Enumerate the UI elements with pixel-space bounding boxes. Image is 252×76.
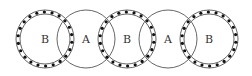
circle-label-b: B	[123, 33, 131, 46]
ring-dot	[141, 60, 144, 63]
ring-dot	[50, 11, 53, 14]
ring-dot	[183, 49, 186, 52]
circle-label-a: A	[81, 33, 91, 46]
ring-dot	[193, 60, 196, 63]
ring-dot	[134, 63, 137, 66]
ring-dot	[70, 41, 73, 44]
ring-dot	[43, 10, 46, 13]
ring-dot	[19, 27, 22, 30]
ring-dot	[207, 10, 210, 13]
ring-dot	[152, 33, 155, 36]
circle-label-b: B	[41, 33, 49, 46]
ring-dot	[23, 20, 26, 23]
ring-dot	[187, 20, 190, 23]
ring-dot	[132, 11, 135, 14]
ring-dot	[228, 55, 231, 58]
overlapping-circles-diagram: BABAB	[0, 0, 252, 76]
ring-dot	[183, 27, 186, 30]
ring-dot	[192, 15, 195, 18]
ring-dot	[28, 15, 31, 18]
ring-dot	[101, 27, 104, 30]
ring-dot	[70, 33, 73, 36]
ring-dot	[146, 55, 149, 58]
ring-dot	[216, 63, 219, 66]
ring-dot	[223, 60, 226, 63]
ring-dot	[139, 14, 142, 17]
ring-dot	[234, 33, 237, 36]
ring-dot	[150, 48, 153, 51]
ring-dot	[199, 12, 202, 15]
circle-label-a: A	[163, 33, 173, 46]
ring-dot	[68, 26, 71, 29]
ring-dot	[110, 15, 113, 18]
ring-dot	[118, 63, 121, 66]
ring-dot	[29, 60, 32, 63]
ring-dot	[99, 42, 102, 45]
diagram-canvas: BABAB	[0, 0, 252, 76]
ring-dot	[208, 64, 211, 67]
circle-label-b: B	[205, 33, 213, 46]
ring-dot	[64, 55, 67, 58]
ring-dot	[187, 56, 190, 59]
ring-dot	[36, 63, 39, 66]
ring-dot	[19, 49, 22, 52]
ring-dot	[125, 10, 128, 13]
ring-dot	[57, 14, 60, 17]
ring-dot	[150, 26, 153, 29]
ring-dot	[17, 34, 20, 37]
ring-dot	[200, 63, 203, 66]
ring-dot	[105, 20, 108, 23]
ring-dot	[23, 56, 26, 59]
ring-dot	[227, 19, 230, 22]
ring-dot	[44, 64, 47, 67]
ring-dot	[181, 34, 184, 37]
ring-dot	[111, 60, 114, 63]
ring-dot	[68, 48, 71, 51]
ring-dot	[214, 11, 217, 14]
ring-dot	[59, 60, 62, 63]
ring-dot	[99, 34, 102, 37]
ring-dot	[234, 41, 237, 44]
ring-dot	[35, 12, 38, 15]
ring-dot	[152, 41, 155, 44]
ring-dot	[117, 12, 120, 15]
labels-layer: BABAB	[41, 33, 213, 46]
ring-dot	[232, 48, 235, 51]
ring-dot	[101, 49, 104, 52]
ring-dot	[181, 42, 184, 45]
ring-dot	[221, 14, 224, 17]
ring-dot	[52, 63, 55, 66]
ring-dot	[105, 56, 108, 59]
ring-dot	[126, 64, 129, 67]
ring-dot	[17, 42, 20, 45]
ring-dot	[232, 26, 235, 29]
